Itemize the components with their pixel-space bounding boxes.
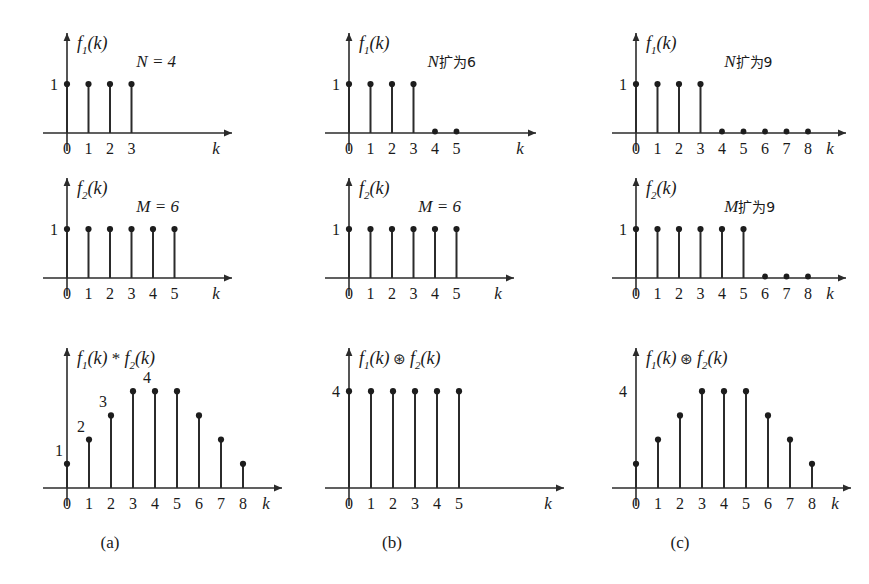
signal-title: f1(k) * f2(k) xyxy=(77,348,155,371)
zero-sample-dot xyxy=(719,129,725,135)
stem-dot xyxy=(128,226,134,232)
x-axis-label: k xyxy=(516,139,524,158)
x-tick-label: 5 xyxy=(742,495,750,512)
x-tick-label: 3 xyxy=(411,495,419,512)
x-tick-label: 5 xyxy=(455,495,463,512)
x-tick-label: 3 xyxy=(128,140,136,157)
x-tick-label: 7 xyxy=(783,285,791,302)
x-tick-label: 8 xyxy=(808,495,816,512)
stem-dot xyxy=(654,226,660,232)
x-tick-label: 2 xyxy=(675,140,683,157)
stem-dot xyxy=(390,388,396,394)
chart-panel-a-bot: f1(k) * f2(k)012345678k1234 xyxy=(43,348,282,513)
x-axis-arrow xyxy=(274,485,282,492)
signal-title: f1(k) ⊛ f2(k) xyxy=(646,348,728,371)
x-axis-label: k xyxy=(544,494,552,513)
x-tick-label: 0 xyxy=(345,285,353,302)
x-tick-label: 6 xyxy=(761,285,769,302)
y-axis-arrow xyxy=(64,178,71,186)
stem-dot xyxy=(64,226,70,232)
x-axis-label: k xyxy=(212,139,220,158)
chart-panel-c-top: f1(k)N扩为91012345678k xyxy=(612,33,846,158)
stem-value-label: 1 xyxy=(55,442,63,459)
signal-title: f1(k) xyxy=(646,33,677,56)
x-tick-label: 0 xyxy=(63,495,71,512)
panel-caption-0: (a) xyxy=(101,533,120,552)
x-tick-label: 4 xyxy=(718,285,726,302)
x-tick-label: 0 xyxy=(632,495,640,512)
stem-dot xyxy=(128,81,134,87)
stem-dot xyxy=(432,226,438,232)
stem-dot xyxy=(809,461,815,467)
x-tick-label: 4 xyxy=(718,140,726,157)
stem-dot xyxy=(697,81,703,87)
x-tick-label: 5 xyxy=(453,285,461,302)
x-tick-label: 1 xyxy=(85,140,93,157)
x-tick-label: 8 xyxy=(239,495,247,512)
chart-panel-b-mid: f2(k)M = 61012345k xyxy=(325,178,514,303)
x-tick-label: 4 xyxy=(431,285,439,302)
x-axis-label: k xyxy=(826,284,834,303)
y-tick-label: 1 xyxy=(50,76,58,93)
stem-dot xyxy=(240,461,246,467)
stem-dot xyxy=(130,388,136,394)
signal-title: f1(k) xyxy=(77,33,108,56)
x-tick-label: 5 xyxy=(453,140,461,157)
x-axis-arrow xyxy=(506,275,514,282)
y-tick-label: 4 xyxy=(332,383,340,400)
stem-dot xyxy=(107,226,113,232)
stem-dot xyxy=(171,226,177,232)
stem-dot xyxy=(765,412,771,418)
stem-dot xyxy=(152,388,158,394)
x-tick-label: 2 xyxy=(106,285,114,302)
x-tick-label: 0 xyxy=(632,285,640,302)
x-tick-label: 1 xyxy=(654,140,662,157)
panel-annotation: M = 6 xyxy=(417,197,461,216)
stem-dot xyxy=(453,226,459,232)
x-axis-label: k xyxy=(826,139,834,158)
x-tick-label: 1 xyxy=(367,140,375,157)
panel-annotation: N扩为9 xyxy=(723,52,772,71)
y-axis-arrow xyxy=(633,178,640,186)
x-tick-label: 7 xyxy=(786,495,794,512)
stem-dot xyxy=(389,81,395,87)
stem-dot xyxy=(654,81,660,87)
x-tick-label: 2 xyxy=(389,495,397,512)
stem-dot xyxy=(655,437,661,443)
stem-dot xyxy=(174,388,180,394)
x-tick-label: 4 xyxy=(431,140,439,157)
stem-dot xyxy=(410,226,416,232)
stem-dot xyxy=(218,437,224,443)
panel-annotation: N = 4 xyxy=(135,52,176,71)
y-tick-label: 1 xyxy=(619,221,627,238)
zero-sample-dot xyxy=(784,274,790,280)
x-axis-arrow xyxy=(224,275,232,282)
x-axis-label: k xyxy=(494,284,502,303)
x-tick-label: 3 xyxy=(129,495,137,512)
signal-title: f2(k) xyxy=(646,178,677,201)
stem-dot xyxy=(456,388,462,394)
stem-dot xyxy=(107,81,113,87)
chart-panel-b-bot: f1(k) ⊛ f2(k)4012345k xyxy=(325,348,564,513)
stem-dot xyxy=(412,388,418,394)
stem-dot xyxy=(196,412,202,418)
signal-title: f2(k) xyxy=(77,178,108,201)
panel-annotation: N扩为6 xyxy=(427,52,476,71)
signal-title: f1(k) ⊛ f2(k) xyxy=(359,348,441,371)
x-tick-label: 2 xyxy=(676,495,684,512)
x-tick-label: 3 xyxy=(128,285,136,302)
stem-dot xyxy=(740,226,746,232)
stem-dot xyxy=(743,388,749,394)
x-tick-label: 4 xyxy=(720,495,728,512)
stem-value-label: 2 xyxy=(77,418,85,435)
x-tick-label: 7 xyxy=(783,140,791,157)
stem-dot xyxy=(677,412,683,418)
x-axis-label: k xyxy=(262,494,270,513)
x-tick-label: 4 xyxy=(151,495,159,512)
stem-dot xyxy=(346,81,352,87)
stem-dot xyxy=(699,388,705,394)
zero-sample-dot xyxy=(741,129,747,135)
stem-dot xyxy=(150,226,156,232)
x-tick-label: 1 xyxy=(654,495,662,512)
x-tick-label: 1 xyxy=(654,285,662,302)
